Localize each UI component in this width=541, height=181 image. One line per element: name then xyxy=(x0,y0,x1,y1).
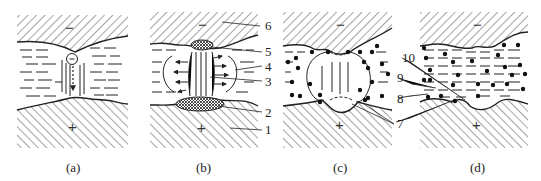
anode-sign: + xyxy=(68,118,77,135)
anode-sign-d: + xyxy=(472,116,481,133)
callout-7: 7 xyxy=(397,116,404,131)
discharge-column xyxy=(189,52,215,96)
caption-a: (a) xyxy=(66,160,80,175)
panel-d: − + (d) xyxy=(420,12,528,175)
molten-spot-bottom xyxy=(176,97,224,111)
panel-b: 6 5 4 3 2 1 − + (b) xyxy=(150,12,272,175)
cathode-sign: − xyxy=(65,19,74,36)
callout-3: 3 xyxy=(265,74,272,89)
caption-b: (b) xyxy=(196,160,211,175)
molten-spot-top xyxy=(191,40,213,50)
callout-5: 5 xyxy=(265,44,272,59)
caption-d: (d) xyxy=(470,160,485,175)
discharge-channel xyxy=(55,60,84,96)
panel-c: − + (c) xyxy=(283,12,392,175)
callout-2: 2 xyxy=(265,105,272,120)
liquid-dashes-c xyxy=(285,52,388,82)
caption-c: (c) xyxy=(333,160,347,175)
callout-9: 9 xyxy=(397,70,404,85)
callout-10: 10 xyxy=(402,50,415,65)
callout-8: 8 xyxy=(397,91,404,106)
cathode-sign-c: − xyxy=(336,16,345,33)
anode-sign-b: + xyxy=(197,119,206,136)
discharge-column-c xyxy=(322,62,348,94)
callout-6: 6 xyxy=(265,18,272,33)
anode-sign-c: + xyxy=(335,116,344,133)
cathode-sign-d: − xyxy=(473,16,482,33)
liquid-dashes-d xyxy=(424,50,520,97)
callout-4: 4 xyxy=(265,59,272,74)
callout-1: 1 xyxy=(265,122,272,137)
discharge-diagram: − + (a) xyxy=(0,0,541,181)
panel-a: − + (a) xyxy=(17,15,128,175)
cathode-sign-b: − xyxy=(198,16,207,33)
